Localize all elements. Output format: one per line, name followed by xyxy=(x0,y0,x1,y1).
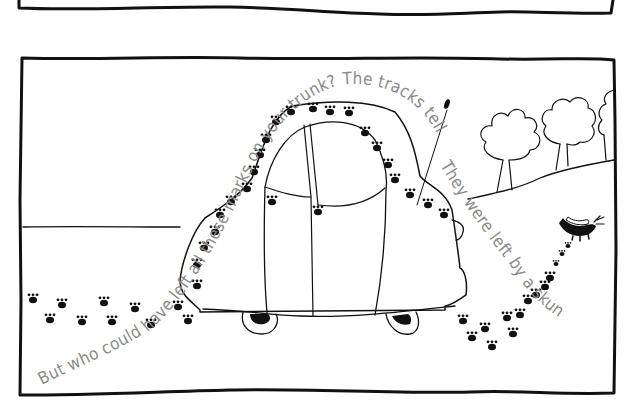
paw-toe xyxy=(81,315,84,318)
paw-toe xyxy=(394,173,397,176)
paw-toe xyxy=(484,322,487,325)
paw-track xyxy=(509,331,517,337)
paw-toe xyxy=(107,296,110,299)
paw-toe xyxy=(515,308,518,311)
paw-track xyxy=(440,212,448,218)
paw-toe xyxy=(383,158,386,161)
paw-toe xyxy=(183,314,186,317)
paw-toe xyxy=(512,327,515,330)
paw-toe xyxy=(439,208,442,211)
paw-track xyxy=(361,130,369,136)
paw-toe xyxy=(187,314,190,317)
paw-toe xyxy=(506,311,509,314)
paw-toe xyxy=(368,126,371,129)
hill xyxy=(468,160,614,199)
paw-toe xyxy=(508,327,511,330)
paw-track xyxy=(184,318,192,324)
paw-toe xyxy=(510,311,513,314)
paw-track xyxy=(554,262,559,266)
paw-toe xyxy=(275,195,278,198)
paw-track xyxy=(516,312,524,318)
tree-2 xyxy=(542,98,595,170)
paw-toe xyxy=(413,188,416,191)
paw-toe xyxy=(519,308,522,311)
paw-toe xyxy=(502,311,505,314)
paw-toe xyxy=(267,195,270,198)
paw-toe xyxy=(523,308,526,311)
paw-toe xyxy=(312,102,315,105)
paw-toe xyxy=(65,298,68,301)
paw-toe xyxy=(321,205,324,208)
paw-toe xyxy=(191,314,194,317)
paw-toe xyxy=(447,208,450,211)
paw-track xyxy=(481,326,489,332)
paw-toe xyxy=(488,322,491,325)
paw-toe xyxy=(344,106,347,109)
car-left-wheel-shadow xyxy=(250,314,270,324)
top-panel-border xyxy=(19,0,613,15)
paw-track xyxy=(309,106,317,112)
paw-toe xyxy=(45,313,48,316)
paw-toe xyxy=(495,340,498,343)
skunk-head xyxy=(594,216,604,224)
paw-track xyxy=(268,199,276,205)
paw-toe xyxy=(57,298,60,301)
paw-toe xyxy=(471,331,474,334)
paw-track xyxy=(384,162,392,168)
paw-track xyxy=(560,252,565,256)
paw-toe xyxy=(85,315,88,318)
paw-toe xyxy=(28,293,31,296)
paw-toe xyxy=(523,294,526,297)
paw-track xyxy=(488,344,496,350)
paw-track xyxy=(345,110,353,116)
paw-toe xyxy=(130,302,133,305)
paw-toe xyxy=(570,242,572,244)
paw-toe xyxy=(555,260,557,262)
paw-toe xyxy=(49,313,52,316)
paw-track xyxy=(468,335,476,341)
paw-toe xyxy=(443,208,446,211)
paw-toe xyxy=(200,279,203,282)
paw-toe xyxy=(565,242,567,244)
paw-track xyxy=(546,275,554,281)
paw-toe xyxy=(553,271,556,274)
paw-track xyxy=(314,209,322,215)
paw-toe xyxy=(431,198,434,201)
caption-tail: They were left by a skunk. xyxy=(0,0,568,321)
paw-toe xyxy=(409,188,412,191)
paw-toe xyxy=(32,293,35,296)
paw-toe xyxy=(475,331,478,334)
paw-toe xyxy=(36,293,39,296)
paw-toe xyxy=(427,198,430,201)
paw-toe xyxy=(398,173,401,176)
paw-toe xyxy=(567,242,569,244)
paw-track xyxy=(373,145,381,151)
paw-toe xyxy=(491,340,494,343)
paw-toe xyxy=(107,315,110,318)
paw-toe xyxy=(61,298,64,301)
paw-track xyxy=(131,306,139,312)
tree-3 xyxy=(599,90,615,160)
paw-track xyxy=(406,192,414,198)
paw-toe xyxy=(313,205,316,208)
paw-track xyxy=(391,177,399,183)
tree-1 xyxy=(481,109,540,192)
paw-toe xyxy=(352,106,355,109)
paw-track xyxy=(503,315,511,321)
paw-toe xyxy=(391,158,394,161)
paw-toe xyxy=(111,315,114,318)
paw-toe xyxy=(317,205,320,208)
car-right-wheel-shadow xyxy=(392,314,411,325)
paw-track xyxy=(566,244,571,248)
paw-toe xyxy=(103,296,106,299)
paw-toe xyxy=(458,314,461,317)
paw-track xyxy=(58,302,66,308)
paw-toe xyxy=(360,126,363,129)
car-window-line-right xyxy=(318,188,385,206)
paw-toe xyxy=(487,340,490,343)
paw-toe xyxy=(380,141,383,144)
paw-toe xyxy=(53,313,56,316)
paw-toe xyxy=(467,331,470,334)
paw-toe xyxy=(387,158,390,161)
paw-toe xyxy=(462,314,465,317)
